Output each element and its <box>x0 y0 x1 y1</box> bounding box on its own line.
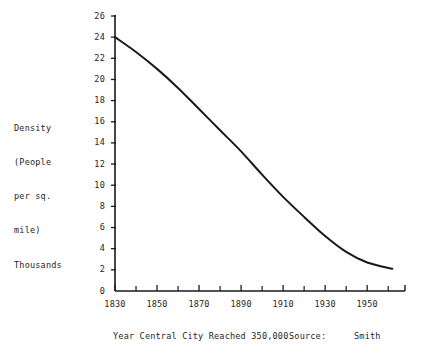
x-axis-tick-label: 1930 <box>308 300 342 309</box>
data-series-density <box>115 37 392 269</box>
x-axis-title: Year Central City Reached 350,000. <box>113 331 294 341</box>
y-axis-tick-label: 16 <box>83 117 105 126</box>
y-axis-tick-label: 4 <box>83 244 105 253</box>
y-axis-tick-label: 18 <box>83 96 105 105</box>
chart-figure: Density (People per sq. mile) Thousands … <box>0 0 423 358</box>
x-axis-tick-label: 1910 <box>266 300 300 309</box>
y-axis-tick-label: 6 <box>83 223 105 232</box>
y-axis-tick-label: 24 <box>83 33 105 42</box>
y-axis-tick-label: 12 <box>83 160 105 169</box>
chart-caption: Year Central City Reached 350,000. Sourc… <box>0 331 423 347</box>
y-axis-tick-label: 10 <box>83 181 105 190</box>
y-axis-tick-label: 22 <box>83 54 105 63</box>
y-axis-tick-label: 8 <box>83 202 105 211</box>
y-axis-tick-label: 2 <box>83 265 105 274</box>
source-label: Source: <box>289 331 326 341</box>
axis-ticks <box>111 16 388 291</box>
x-axis-tick-label: 1890 <box>224 300 258 309</box>
y-axis-tick-label: 20 <box>83 75 105 84</box>
y-axis-tick-label: 26 <box>83 12 105 21</box>
source-value: Smith <box>354 331 381 341</box>
y-axis-tick-label: 14 <box>83 138 105 147</box>
y-axis-tick-label: 0 <box>83 287 105 296</box>
axis-lines <box>115 15 405 291</box>
x-axis-tick-label: 1870 <box>182 300 216 309</box>
x-axis-tick-label: 1950 <box>350 300 384 309</box>
x-axis-tick-label: 1850 <box>140 300 174 309</box>
x-axis-tick-label: 1830 <box>98 300 132 309</box>
